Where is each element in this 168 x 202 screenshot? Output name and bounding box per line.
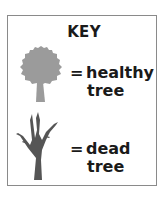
healthy-tree-label: =healthy tree (70, 64, 154, 100)
equals-sign: = (70, 140, 86, 158)
dead-tree-icon (14, 110, 62, 182)
healthy-tree-icon (17, 44, 65, 104)
equals-sign: = (70, 64, 86, 82)
dead-tree-label: =dead tree (70, 140, 131, 176)
legend-title: KEY (0, 23, 168, 41)
